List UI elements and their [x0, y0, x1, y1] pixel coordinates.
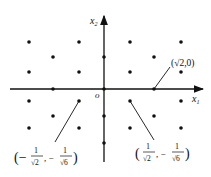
- svg-text:√2: √2: [143, 154, 151, 163]
- svg-text:√6: √6: [60, 158, 68, 167]
- x1-axis-label: x1: [191, 93, 199, 105]
- svg-text:√6: √6: [172, 154, 180, 163]
- x2-axis-label: x2: [89, 15, 97, 27]
- svg-text:1: 1: [146, 142, 150, 151]
- annotation-pos-point: ( 1 √2 , − 1 √6 ): [135, 142, 190, 163]
- leader-line-sqrt2: [154, 67, 170, 89]
- svg-text:): ): [73, 150, 78, 166]
- svg-text:, −: , −: [44, 153, 54, 163]
- leader-line-right: [130, 101, 154, 140]
- annotation-neg-point: (− 1 √2 , − 1 √6 ): [14, 146, 78, 167]
- annotation-sqrt2-0: (√2,0): [171, 58, 194, 69]
- svg-text:(: (: [135, 146, 140, 162]
- lattice-diagram: x2 x1 o (√2,0) (− 1 √2 , − 1 √6 ) ( 1 √2…: [0, 0, 211, 177]
- svg-text:1: 1: [34, 146, 38, 155]
- lattice-points: [27, 40, 183, 145]
- svg-text:1: 1: [175, 142, 179, 151]
- svg-text:(−: (−: [14, 150, 27, 166]
- svg-text:, −: , −: [156, 149, 166, 159]
- svg-text:√2: √2: [31, 158, 39, 167]
- leader-line-left: [55, 101, 79, 142]
- svg-text:1: 1: [63, 146, 67, 155]
- origin-label: o: [95, 90, 100, 100]
- svg-text:): ): [185, 146, 190, 162]
